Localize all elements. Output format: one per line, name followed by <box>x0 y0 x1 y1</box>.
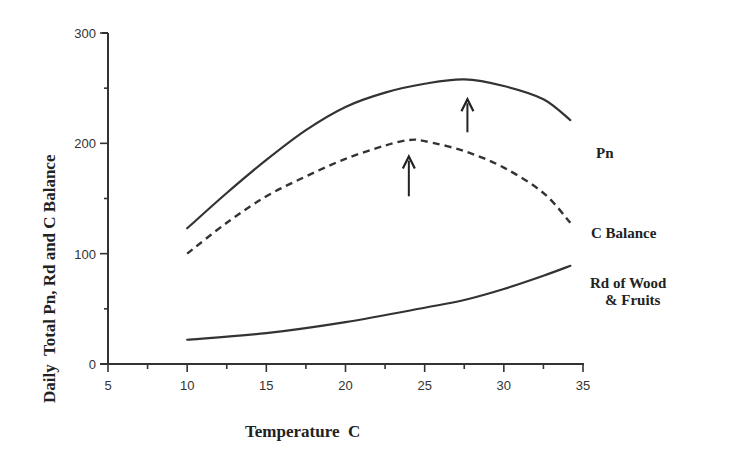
x-tick-label: 35 <box>576 378 590 393</box>
series-label-c-balance: C Balance <box>591 225 657 241</box>
y-tick-label: 300 <box>74 26 96 41</box>
y-tick-label: 100 <box>74 247 96 262</box>
x-tick-label: 25 <box>417 378 431 393</box>
x-tick-label: 15 <box>259 378 273 393</box>
arrow-up-icon-pn <box>461 99 473 132</box>
y-ticks <box>100 33 108 364</box>
x-tick-label: 30 <box>497 378 511 393</box>
series-label-rd-line2: & Fruits <box>605 292 661 308</box>
series-lines <box>187 79 570 339</box>
c-balance-line <box>187 140 570 254</box>
arrow-up-icon-c-balance <box>403 157 415 197</box>
optimum-arrows <box>403 99 474 196</box>
y-tick-label: 200 <box>74 136 96 151</box>
series-label-pn: Pn <box>596 145 614 161</box>
y-axis-title: Daily Total Pn, Rd and C Balance <box>40 154 59 403</box>
x-ticks <box>108 364 583 372</box>
axes <box>100 33 584 364</box>
pn-line <box>187 79 570 228</box>
x-axis-title: Temperature C <box>245 422 360 441</box>
y-tick-label: 0 <box>89 357 96 372</box>
y-tick-labels: 0100200300 <box>74 26 96 372</box>
chart: 5101520253035 0100200300 Pn C Balance Rd… <box>0 0 736 460</box>
x-tick-label: 5 <box>104 378 111 393</box>
series-label-rd-line1: Rd of Wood <box>590 275 667 291</box>
rd-line <box>187 266 570 340</box>
x-tick-label: 20 <box>338 378 352 393</box>
x-tick-labels: 5101520253035 <box>104 378 590 393</box>
x-tick-label: 10 <box>180 378 194 393</box>
